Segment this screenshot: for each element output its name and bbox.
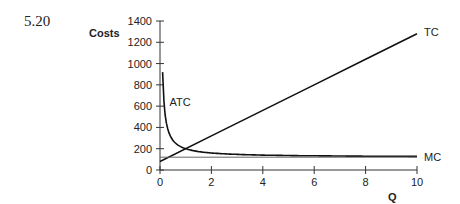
x-tick-label: 6 [311, 176, 317, 188]
tc-curve [160, 34, 417, 162]
x-tick-label: 8 [363, 176, 369, 188]
atc-label: ATC [170, 96, 191, 108]
x-axis-title: Q [388, 191, 397, 203]
y-axis: 0200400600800100012001400 [128, 15, 164, 176]
series-layer: TCATCMC [160, 26, 441, 163]
x-tick-label: 0 [157, 176, 163, 188]
y-tick-label: 400 [134, 121, 152, 133]
y-tick-label: 1200 [128, 36, 152, 48]
x-tick-label: 4 [260, 176, 266, 188]
y-tick-label: 800 [134, 79, 152, 91]
x-tick-label: 10 [411, 176, 423, 188]
y-tick-label: 600 [134, 100, 152, 112]
y-tick-label: 1400 [128, 15, 152, 27]
tc-label: TC [424, 26, 439, 38]
y-tick-label: 0 [146, 164, 152, 176]
x-tick-label: 2 [208, 176, 214, 188]
y-tick-label: 1000 [128, 58, 152, 70]
y-axis-title: Costs [89, 27, 120, 39]
y-tick-label: 200 [134, 143, 152, 155]
x-axis: 0246810 [157, 166, 423, 188]
mc-label: MC [424, 151, 441, 163]
atc-curve [163, 72, 417, 156]
cost-curves-chart: 0200400600800100012001400 0246810 TCATCM… [0, 0, 460, 204]
